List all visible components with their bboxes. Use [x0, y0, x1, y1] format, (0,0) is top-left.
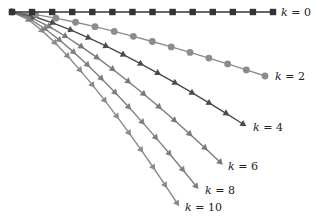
series-label: k = 8	[205, 184, 235, 197]
triangle-down-marker	[113, 112, 119, 119]
square-marker	[109, 9, 115, 15]
square-marker	[69, 9, 75, 15]
series-label: k = 4	[253, 121, 283, 134]
series-k-2	[9, 9, 269, 80]
circle-marker	[52, 15, 59, 22]
circle-marker	[149, 38, 156, 45]
triangle-down-marker	[125, 129, 131, 136]
circle-marker	[111, 28, 118, 35]
label-value: = 0	[288, 6, 311, 19]
series-k-0	[9, 9, 276, 15]
triangle-down-marker	[124, 77, 131, 83]
series-label: k = 0	[281, 6, 311, 19]
series-k-10	[9, 8, 179, 206]
curves-group	[9, 8, 277, 206]
trajectory-diagram: k = 0k = 2k = 4k = 6k = 8k = 10	[0, 0, 317, 222]
circle-marker	[187, 49, 194, 56]
square-marker	[169, 9, 175, 15]
circle-marker	[262, 73, 269, 80]
circle-marker	[205, 55, 212, 62]
label-value: = 2	[282, 70, 305, 83]
series-label: k = 6	[228, 160, 258, 173]
series-label: k = 2	[275, 70, 305, 83]
label-value: = 10	[192, 201, 222, 214]
square-marker	[129, 9, 135, 15]
square-marker	[29, 9, 35, 15]
triangle-down-marker	[137, 146, 143, 153]
square-marker	[250, 9, 256, 15]
triangle-down-marker	[56, 36, 63, 42]
circle-marker	[130, 33, 137, 40]
series-label: k = 10	[185, 201, 222, 214]
circle-marker	[92, 23, 99, 30]
circle-marker	[72, 19, 79, 26]
label-value: = 4	[260, 121, 283, 134]
square-marker	[230, 9, 236, 15]
curve-line	[12, 12, 220, 162]
circle-marker	[224, 61, 231, 68]
triangle-down-marker	[149, 163, 155, 170]
labels-group: k = 0k = 2k = 4k = 6k = 8k = 10	[185, 6, 311, 214]
square-marker	[9, 9, 15, 15]
circle-marker	[243, 67, 250, 74]
circle-marker	[168, 43, 175, 50]
triangle-down-marker	[109, 65, 116, 71]
square-marker	[149, 9, 155, 15]
square-marker	[49, 9, 55, 15]
square-marker	[89, 9, 95, 15]
square-marker	[270, 9, 276, 15]
square-marker	[210, 9, 216, 15]
label-value: = 6	[235, 160, 258, 173]
square-marker	[189, 9, 195, 15]
triangle-down-marker	[93, 53, 100, 59]
label-value: = 8	[212, 184, 235, 197]
